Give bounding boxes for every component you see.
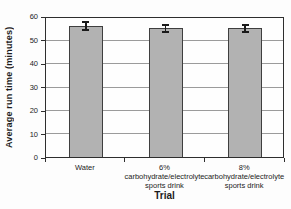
y-axis-tick — [41, 87, 45, 88]
plot-area — [45, 17, 284, 158]
y-tick-label: 50 — [16, 37, 38, 45]
y-axis-title: Average run time (minutes) — [1, 17, 17, 158]
y-tick-label: 60 — [16, 13, 38, 21]
error-bar-cap-top — [162, 24, 169, 26]
x-category-label: 8% carbohydrate/electrolyte sports drink — [188, 163, 291, 190]
y-tick-label: 20 — [16, 107, 38, 115]
bar — [228, 28, 262, 157]
error-bar-cap-bottom — [242, 31, 249, 33]
y-tick-label: 10 — [16, 131, 38, 139]
y-axis-tick — [41, 40, 45, 41]
x-axis-tick — [45, 158, 46, 162]
bar-chart-figure: Average run time (minutes) 0102030405060… — [0, 0, 291, 209]
error-bar-cap-top — [242, 24, 249, 26]
error-bar — [242, 24, 249, 32]
y-tick-label: 30 — [16, 84, 38, 92]
error-bar-cap-bottom — [82, 29, 89, 31]
x-axis-tick — [124, 158, 125, 162]
bar — [69, 26, 103, 157]
y-axis-tick — [41, 111, 45, 112]
y-axis-tick — [41, 17, 45, 18]
error-bar-cap-top — [82, 21, 89, 23]
y-axis-tick — [41, 134, 45, 135]
y-axis-tick — [41, 64, 45, 65]
y-tick-label: 0 — [16, 154, 38, 162]
error-bar-cap-bottom — [162, 31, 169, 33]
error-bar — [82, 21, 89, 30]
bar — [149, 28, 183, 157]
x-axis-tick — [204, 158, 205, 162]
x-axis-tick — [284, 158, 285, 162]
error-bar — [162, 24, 169, 32]
x-axis-title: Trial — [135, 190, 195, 201]
y-tick-label: 40 — [16, 60, 38, 68]
